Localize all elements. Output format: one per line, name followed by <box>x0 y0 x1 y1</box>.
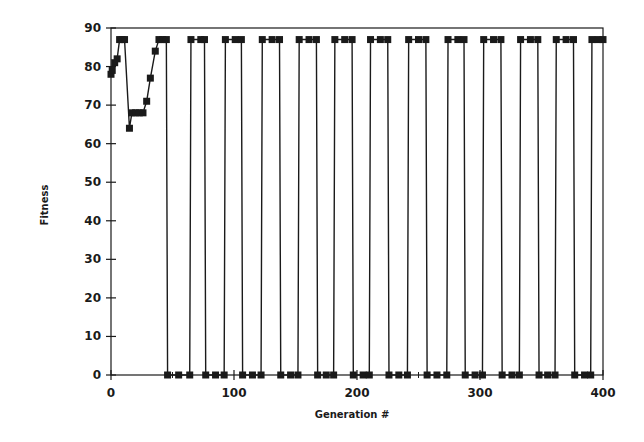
data-point-marker <box>249 372 256 379</box>
data-point-marker <box>472 372 479 379</box>
data-point-marker <box>350 372 357 379</box>
y-tick-label: 80 <box>84 60 101 74</box>
data-point-marker <box>587 372 594 379</box>
data-point-marker <box>536 372 543 379</box>
data-point-marker <box>296 36 303 43</box>
y-tick-label: 0 <box>93 368 101 382</box>
data-point-marker <box>454 36 461 43</box>
data-point-marker <box>232 36 239 43</box>
data-point-marker <box>552 372 559 379</box>
data-point-marker <box>563 36 570 43</box>
data-point-marker <box>424 372 431 379</box>
data-point-marker <box>395 372 402 379</box>
data-point-marker <box>239 372 246 379</box>
data-point-marker <box>600 36 607 43</box>
data-point-marker <box>114 55 121 62</box>
data-point-marker <box>480 36 487 43</box>
data-point-marker <box>331 36 338 43</box>
data-point-marker <box>221 372 228 379</box>
data-point-marker <box>527 36 534 43</box>
data-point-marker <box>313 36 320 43</box>
data-point-marker <box>330 372 337 379</box>
data-point-marker <box>349 36 356 43</box>
x-tick-label: 400 <box>590 386 615 400</box>
data-point-marker <box>553 36 560 43</box>
data-point-marker <box>147 75 154 82</box>
x-tick-label: 300 <box>467 386 492 400</box>
y-tick-label: 90 <box>84 21 101 35</box>
data-point-marker <box>443 372 450 379</box>
data-point-marker <box>259 36 266 43</box>
data-point-marker <box>497 36 504 43</box>
data-point-marker <box>258 372 265 379</box>
data-point-marker <box>323 372 330 379</box>
data-point-marker <box>139 109 146 116</box>
y-tick-label: 70 <box>84 98 101 112</box>
y-tick-label: 30 <box>84 252 101 266</box>
data-point-marker <box>341 36 348 43</box>
data-point-marker <box>163 36 170 43</box>
data-point-marker <box>405 36 412 43</box>
y-tick-label: 50 <box>84 175 101 189</box>
data-point-marker <box>385 372 392 379</box>
data-point-marker <box>143 98 150 105</box>
data-point-marker <box>433 372 440 379</box>
data-point-marker <box>276 36 283 43</box>
data-point-marker <box>570 36 577 43</box>
data-point-marker <box>445 36 452 43</box>
data-point-marker <box>517 36 524 43</box>
data-point-marker <box>186 372 193 379</box>
data-point-marker <box>377 36 384 43</box>
data-point-marker <box>314 372 321 379</box>
x-tick-label: 100 <box>221 386 246 400</box>
data-point-marker <box>415 36 422 43</box>
data-point-marker <box>404 372 411 379</box>
data-point-marker <box>461 36 468 43</box>
data-point-marker <box>294 372 301 379</box>
data-point-marker <box>126 125 133 132</box>
data-point-marker <box>462 372 469 379</box>
data-point-marker <box>121 36 128 43</box>
data-point-marker <box>201 36 208 43</box>
data-point-marker <box>499 372 506 379</box>
x-tick-label: 0 <box>107 386 115 400</box>
data-point-marker <box>152 48 159 55</box>
data-point-marker <box>422 36 429 43</box>
y-tick-label: 20 <box>84 291 101 305</box>
x-axis-title: Generation # <box>315 409 390 420</box>
data-point-marker <box>306 36 313 43</box>
data-point-marker <box>366 372 373 379</box>
data-point-marker <box>269 36 276 43</box>
data-point-marker <box>287 372 294 379</box>
data-point-marker <box>164 372 171 379</box>
y-axis-title: Fitness <box>39 185 50 226</box>
data-point-marker <box>516 372 523 379</box>
data-point-marker <box>534 36 541 43</box>
data-point-marker <box>490 36 497 43</box>
data-point-marker <box>367 36 374 43</box>
data-point-marker <box>360 372 367 379</box>
y-tick-label: 40 <box>84 214 101 228</box>
plot-frame <box>111 28 603 375</box>
data-point-marker <box>571 372 578 379</box>
data-point-marker <box>175 372 182 379</box>
data-point-marker <box>109 67 116 74</box>
data-point-marker <box>588 36 595 43</box>
data-point-marker <box>187 36 194 43</box>
data-point-marker <box>202 372 209 379</box>
data-point-marker <box>384 36 391 43</box>
data-point-marker <box>277 372 284 379</box>
data-series <box>108 36 607 378</box>
data-point-marker <box>222 36 229 43</box>
series-line <box>111 40 603 375</box>
data-point-marker <box>581 372 588 379</box>
data-point-marker <box>238 36 245 43</box>
fitness-chart: 0102030405060708090 0100200300400 Genera… <box>0 0 644 442</box>
data-point-marker <box>212 372 219 379</box>
data-point-marker <box>508 372 515 379</box>
y-tick-label: 10 <box>84 329 101 343</box>
x-tick-label: 200 <box>344 386 369 400</box>
data-point-marker <box>544 372 551 379</box>
data-point-marker <box>479 372 486 379</box>
y-tick-label: 60 <box>84 137 101 151</box>
